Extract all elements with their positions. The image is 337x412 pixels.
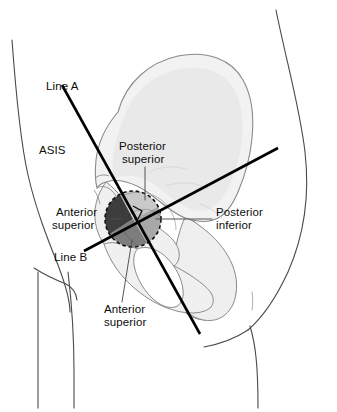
figure-canvas: Line A ASIS Posterior superior Anterior … [0,0,337,412]
label-line-a: Line A [46,80,79,93]
label-posterior-inferior-line2: inferior [216,219,252,232]
anatomical-illustration [0,0,337,412]
label-anterior-superior-left-line1: Anterior [56,206,97,219]
label-anterior-superior-left-line2: superior [52,219,94,232]
label-anterior-superior-bottom-line1: Anterior [104,303,145,316]
label-posterior-superior-line2: superior [122,153,164,166]
label-posterior-superior-line1: Posterior [119,140,166,153]
label-anterior-superior-bottom-line2: superior [104,316,146,329]
label-line-b: Line B [54,251,87,264]
label-asis: ASIS [39,144,66,157]
label-posterior-inferior-line1: Posterior [216,206,263,219]
